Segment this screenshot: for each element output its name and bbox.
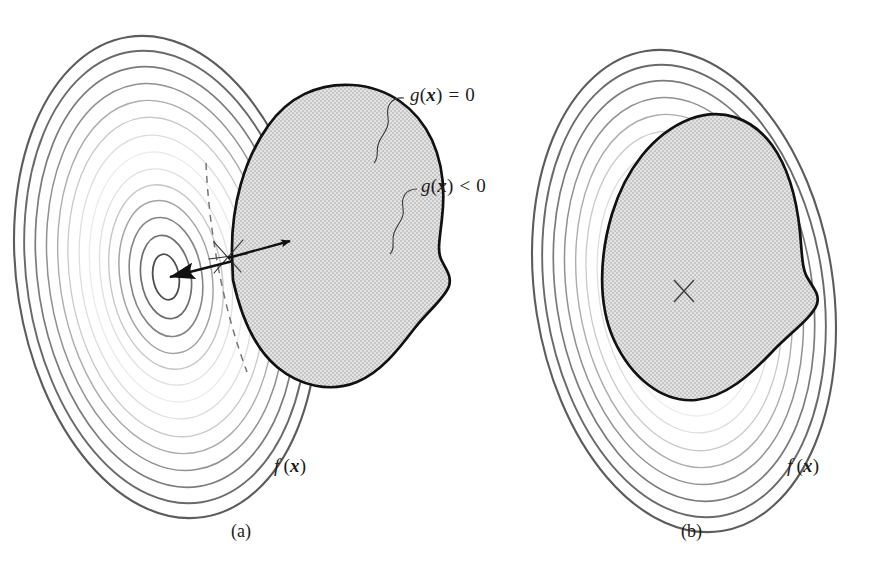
label-f-of-x-a: f (x) <box>274 455 306 477</box>
label-f-of-x-b: f (x) <box>787 455 819 477</box>
label-g-equals-zero: g(x) = 0 <box>410 84 475 106</box>
label-f-fn: f <box>274 455 279 476</box>
label-paren-close: ) <box>300 455 307 476</box>
caption-panel-b: (b) <box>681 521 702 542</box>
label-f-fn: f <box>787 455 792 476</box>
caption-panel-a: (a) <box>231 521 251 542</box>
feasible-region-b <box>602 114 818 400</box>
panel-a <box>0 14 450 541</box>
label-operator: = <box>447 84 460 105</box>
label-x-var: x <box>290 455 300 476</box>
label-paren-close: ) <box>436 84 443 105</box>
label-x-var: x <box>803 455 813 476</box>
label-x-var: x <box>437 175 447 196</box>
label-g-fn: g <box>421 175 431 196</box>
figure-root: g(x) = 0 g(x) < 0 f (x) f (x) (a) (b) <box>0 0 892 584</box>
label-paren-close: ) <box>813 455 820 476</box>
label-rhs: 0 <box>476 175 486 196</box>
label-x-var: x <box>426 84 436 105</box>
label-operator: < <box>458 175 471 196</box>
label-paren-close: ) <box>447 175 454 196</box>
label-g-fn: g <box>410 84 420 105</box>
label-g-less-than-zero: g(x) < 0 <box>421 175 486 197</box>
label-rhs: 0 <box>465 84 475 105</box>
